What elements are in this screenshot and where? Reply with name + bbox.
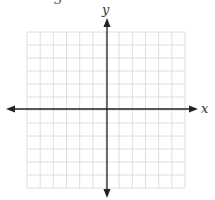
x-axis-arrow-right-icon (189, 106, 198, 113)
grid-svg (0, 0, 215, 200)
grid-lines (27, 32, 185, 188)
coordinate-plane: 3 x y (0, 0, 215, 200)
y-axis-arrow-up-icon (104, 18, 111, 27)
x-axis-arrow-left-icon (6, 106, 15, 113)
y-axis-label: y (102, 2, 109, 17)
x-axis-label: x (201, 101, 208, 116)
y-axis-arrow-down-icon (104, 189, 111, 198)
